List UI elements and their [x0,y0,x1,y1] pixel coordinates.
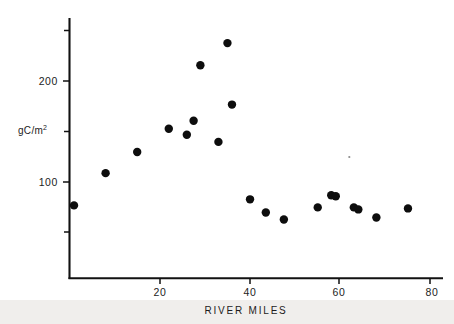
data-point [214,138,222,146]
x-tick-label-40: 40 [244,286,257,298]
data-point [196,61,204,69]
x-axis-title: RIVER MILES [204,305,287,316]
data-point [133,148,141,156]
data-point [228,100,236,108]
data-point [101,169,109,177]
data-point [372,213,380,221]
data-point [314,203,322,211]
data-point [70,201,78,209]
data-point [354,205,362,213]
annotations-layer [348,156,350,158]
figure-container: 200 100 gC/m2 20 40 60 80 RIVER MILES [0,0,454,324]
x-tick-label-80: 80 [426,286,439,298]
data-points-layer [70,39,412,224]
data-point [246,195,254,203]
y-tick-label-100: 100 [39,176,58,188]
data-point [183,131,191,139]
scatter-plot-svg: 200 100 gC/m2 20 40 60 80 RIVER MILES [0,0,454,324]
y-axis-title: gC/m2 [18,124,47,136]
y-axis-title-superscript: 2 [43,124,47,131]
data-point [165,125,173,133]
data-point [404,204,412,212]
data-point [189,117,197,125]
data-point [223,39,231,47]
y-tick-label-200: 200 [39,75,58,87]
data-point [262,208,270,216]
y-axis-title-main: gC/m [18,125,43,136]
x-tick-label-20: 20 [154,286,167,298]
x-tick-label-60: 60 [333,286,346,298]
faint-speck-mark [348,156,350,158]
data-point [280,215,288,223]
data-point [332,192,340,200]
